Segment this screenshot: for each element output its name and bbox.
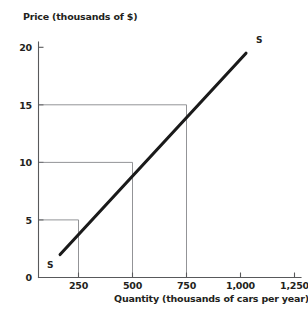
y-tick-label-15: 15 [19,100,32,111]
y-tick-label-10: 10 [19,157,32,168]
supply-label-lower: S [47,260,53,270]
chart-canvas: Price (thousands of $) 20 15 10 5 0 250 … [0,0,308,315]
y-tick-label-5: 5 [26,215,32,226]
supply-curve-line [60,53,246,254]
supply-label-upper: S [256,35,262,45]
x-tick-label-1250: 1,250 [280,280,308,291]
y-tick-label-0: 0 [26,272,33,283]
y-axis-title: Price (thousands of $) [23,11,137,22]
y-tick-label-20: 20 [19,42,32,53]
x-axis-title: Quantity (thousands of cars per year) [114,293,308,304]
x-tick-label-1000: 1,000 [226,280,256,291]
x-tick-label-500: 500 [123,280,143,291]
x-tick-label-750: 750 [177,280,197,291]
supply-curve-chart: Price (thousands of $) 20 15 10 5 0 250 … [0,0,308,315]
x-tick-label-250: 250 [69,280,89,291]
